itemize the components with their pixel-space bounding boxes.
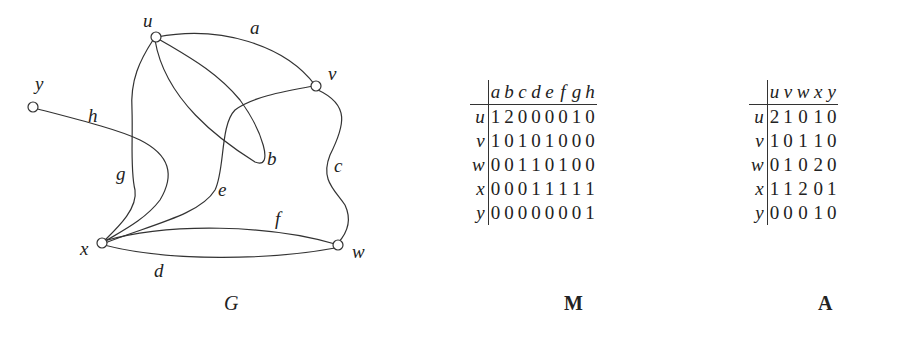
matrix-cell: 1 bbox=[516, 129, 530, 153]
column-header: c bbox=[516, 80, 530, 105]
matrix-cell: 0 bbox=[543, 153, 557, 177]
edge-label-c: c bbox=[334, 155, 343, 176]
matrix-cell: 0 bbox=[543, 201, 557, 225]
column-header: d bbox=[529, 80, 543, 105]
matrix-cell: 1 bbox=[570, 105, 584, 130]
adjacency-matrix-caption: A bbox=[818, 292, 832, 315]
matrix-cell: 1 bbox=[583, 177, 597, 201]
row-header: u bbox=[470, 105, 488, 130]
matrix-row: y 0 0 0 1 0 bbox=[749, 201, 838, 225]
edge-d bbox=[104, 245, 335, 257]
edge-a bbox=[157, 34, 315, 85]
matrix-cell: 0 bbox=[583, 105, 597, 130]
column-header: v bbox=[781, 80, 795, 105]
matrix-cell: 0 bbox=[811, 177, 825, 201]
matrix-cell: 0 bbox=[583, 129, 597, 153]
matrix-cell: 2 bbox=[502, 105, 516, 130]
matrix-cell: 0 bbox=[767, 201, 781, 225]
row-header: w bbox=[749, 153, 767, 177]
vertex-w bbox=[333, 240, 343, 250]
row-header: v bbox=[470, 129, 488, 153]
matrix-cell: 1 bbox=[583, 201, 597, 225]
row-header: v bbox=[749, 129, 767, 153]
matrix-cell: 1 bbox=[811, 105, 825, 130]
column-header: y bbox=[825, 80, 839, 105]
graph-g: u v w x y a b c d e f g h bbox=[0, 0, 400, 337]
matrix-cell: 2 bbox=[795, 177, 812, 201]
matrix-cell: 1 bbox=[556, 153, 570, 177]
edge-label-a: a bbox=[250, 17, 260, 38]
matrix-corner bbox=[749, 80, 767, 105]
matrix-cell: 1 bbox=[811, 201, 825, 225]
matrix-cell: 0 bbox=[556, 105, 570, 130]
matrix-cell: 0 bbox=[583, 153, 597, 177]
matrix-header-row: u v w x y bbox=[749, 80, 838, 105]
vertex-label-w: w bbox=[352, 241, 365, 262]
edge-label-g: g bbox=[116, 163, 126, 184]
row-header: y bbox=[749, 201, 767, 225]
matrix-cell: 0 bbox=[488, 153, 502, 177]
column-header: h bbox=[583, 80, 597, 105]
matrix-row: v 1 0 1 1 0 bbox=[749, 129, 838, 153]
matrix-cell: 1 bbox=[781, 105, 795, 130]
column-header: a bbox=[488, 80, 502, 105]
edge-g bbox=[102, 40, 153, 243]
matrix-cell: 0 bbox=[502, 153, 516, 177]
matrix-cell: 1 bbox=[795, 129, 812, 153]
matrix-cell: 0 bbox=[529, 201, 543, 225]
edge-b bbox=[155, 38, 265, 163]
matrix-cell: 1 bbox=[570, 177, 584, 201]
vertex-x bbox=[97, 238, 107, 248]
matrix-cell: 0 bbox=[488, 177, 502, 201]
matrix-cell: 0 bbox=[502, 177, 516, 201]
matrix-cell: 0 bbox=[767, 153, 781, 177]
matrix-cell: 0 bbox=[825, 129, 839, 153]
matrix-row: u 2 1 0 1 0 bbox=[749, 105, 838, 130]
matrix-cell: 0 bbox=[781, 129, 795, 153]
matrix-row: v 1 0 1 0 1 0 0 0 bbox=[470, 129, 597, 153]
column-header: f bbox=[556, 80, 570, 105]
edge-label-e: e bbox=[218, 179, 226, 200]
column-header: x bbox=[811, 80, 825, 105]
vertex-label-x: x bbox=[79, 238, 89, 259]
edge-label-b: b bbox=[267, 148, 277, 169]
matrix-cell: 1 bbox=[781, 177, 795, 201]
matrix-cell: 0 bbox=[488, 201, 502, 225]
column-header: b bbox=[502, 80, 516, 105]
matrix-cell: 1 bbox=[516, 153, 530, 177]
matrix-cell: 1 bbox=[488, 129, 502, 153]
matrix-cell: 0 bbox=[516, 201, 530, 225]
matrix-cell: 0 bbox=[570, 153, 584, 177]
row-header: x bbox=[470, 177, 488, 201]
matrix-row: x 0 0 0 1 1 1 1 1 bbox=[470, 177, 597, 201]
matrix-cell: 1 bbox=[488, 105, 502, 130]
matrix-cell: 0 bbox=[825, 201, 839, 225]
matrix-cell: 1 bbox=[767, 177, 781, 201]
incidence-matrix-caption: M bbox=[564, 292, 583, 315]
matrix-corner bbox=[470, 80, 488, 105]
matrix-cell: 0 bbox=[570, 129, 584, 153]
matrix-cell: 1 bbox=[767, 129, 781, 153]
matrix-cell: 0 bbox=[825, 105, 839, 130]
vertex-v bbox=[311, 81, 321, 91]
matrix-cell: 0 bbox=[795, 201, 812, 225]
column-header: g bbox=[570, 80, 584, 105]
matrix-header-row: a b c d e f g h bbox=[470, 80, 597, 105]
edge-label-f: f bbox=[275, 208, 283, 229]
column-header: u bbox=[767, 80, 781, 105]
matrix-cell: 0 bbox=[556, 129, 570, 153]
matrix-cell: 1 bbox=[529, 153, 543, 177]
matrix-cell: 1 bbox=[811, 129, 825, 153]
vertex-label-u: u bbox=[143, 10, 153, 31]
matrix-cell: 0 bbox=[795, 153, 812, 177]
edge-h bbox=[34, 108, 168, 243]
edge-e bbox=[105, 86, 313, 243]
matrix-cell: 0 bbox=[781, 201, 795, 225]
matrix-cell: 1 bbox=[543, 129, 557, 153]
row-header: x bbox=[749, 177, 767, 201]
matrix-row: y 0 0 0 0 0 0 0 1 bbox=[470, 201, 597, 225]
edge-label-d: d bbox=[154, 260, 164, 281]
row-header: y bbox=[470, 201, 488, 225]
matrix-cell: 1 bbox=[529, 177, 543, 201]
vertex-y bbox=[28, 102, 38, 112]
